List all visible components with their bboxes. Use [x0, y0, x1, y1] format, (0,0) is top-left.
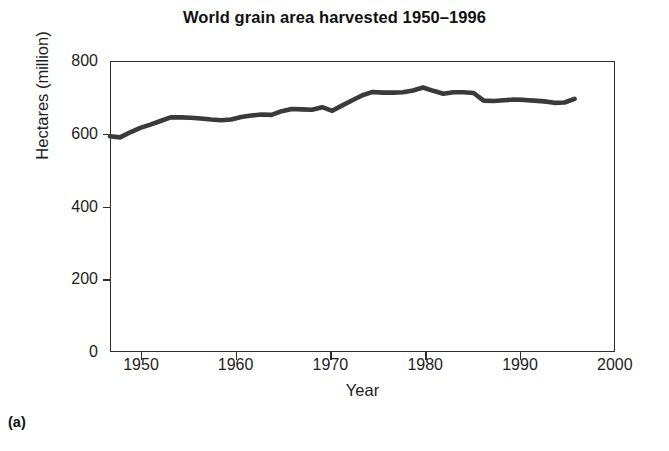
x-tick-label-1960: 1960: [201, 356, 271, 374]
x-tick-label-2000: 2000: [580, 356, 650, 374]
x-axis-title: Year: [110, 381, 615, 400]
figure-panel: World grain area harvested 1950–1996 800…: [0, 0, 669, 451]
x-tick-label-1950: 1950: [106, 356, 176, 374]
y-tick-label-200: 200: [36, 270, 98, 288]
y-axis-title: Hectares (million): [33, 0, 52, 206]
x-tick-label-1980: 1980: [390, 356, 460, 374]
x-tick-label-1990: 1990: [485, 356, 555, 374]
x-tick-label-1970: 1970: [295, 356, 365, 374]
y-tick-label-0: 0: [36, 343, 98, 361]
plot-area: [110, 61, 615, 352]
data-series-line: [110, 61, 615, 352]
panel-label: (a): [8, 414, 26, 430]
